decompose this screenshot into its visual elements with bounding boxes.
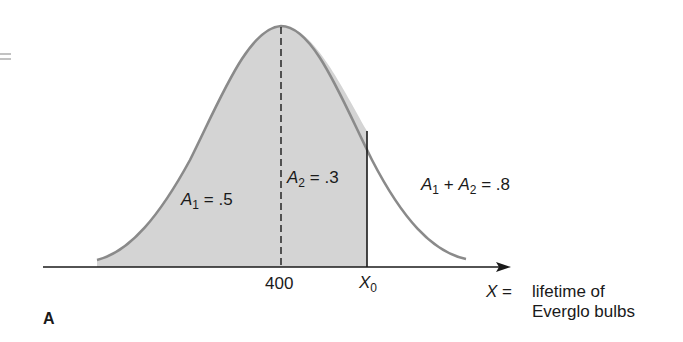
x0-sub: 0 [370, 281, 377, 295]
axis-label-line2: Everglo bulbs [532, 302, 635, 322]
sum-var1: A [421, 175, 432, 194]
a2-label: A2 = .3 [287, 168, 339, 190]
a1-var: A [181, 190, 192, 209]
x0-var: X [359, 273, 370, 292]
a1-label: A1 = .5 [181, 190, 233, 212]
shaded-area [97, 26, 367, 267]
a1-value: = .5 [204, 190, 233, 209]
a2-sub: 2 [298, 176, 305, 190]
panel-label: A [43, 310, 55, 328]
a2-var: A [287, 168, 298, 187]
a2-value: = .3 [310, 168, 339, 187]
sum-plus: + [444, 175, 454, 194]
axis-label-var: X [486, 282, 497, 301]
a1-sub: 1 [192, 198, 199, 212]
tick-label-mean: 400 [265, 274, 293, 294]
tick-label-x0: X0 [359, 273, 377, 295]
sum-var2: A [458, 175, 469, 194]
sum-label: A1 + A2 = .8 [421, 175, 510, 197]
axis-label-line1: lifetime of [532, 282, 605, 302]
axis-label: X = [486, 282, 512, 302]
axis-label-eq: = [502, 282, 512, 301]
sum-value: = .8 [481, 175, 510, 194]
sum-sub1: 1 [432, 183, 439, 197]
sum-sub2: 2 [470, 183, 477, 197]
